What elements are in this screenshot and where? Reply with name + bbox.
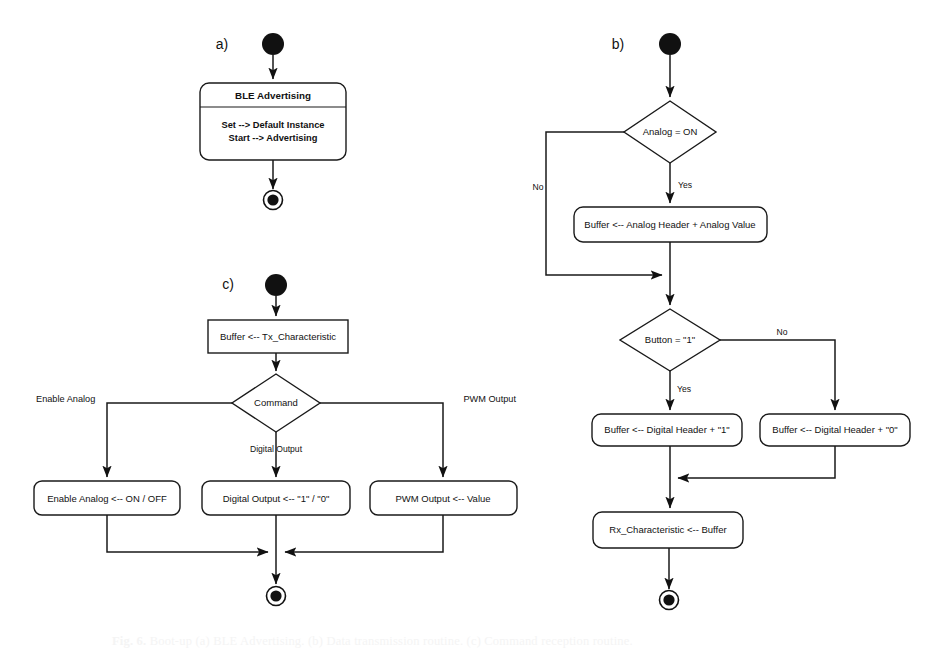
- panel-c-label-digital-output: Digital Output: [250, 444, 303, 454]
- panel-b-action-digital-zero-label: Buffer <-- Digital Header + "0": [772, 424, 897, 435]
- panel-c-edge-enable-analog-merge: [107, 515, 268, 552]
- panel-b-action-analog-buffer-label: Buffer <-- Analog Header + Analog Value: [584, 219, 755, 230]
- panel-c-action-pwm-output-label: PWM Output <-- Value: [395, 493, 490, 504]
- panel-c-edge-pwm-output: [320, 403, 443, 477]
- panel-b-decision-button-label: Button = "1": [645, 334, 695, 345]
- panel-c-initial-node: [265, 274, 287, 296]
- panel-c-letter: c): [222, 276, 234, 292]
- figure-caption: Fig. 6. Boot-up (a) BLE Advertising. (b)…: [112, 634, 633, 649]
- panel-a-initial-node: [262, 33, 284, 55]
- panel-b-decision-analog-label: Analog = ON: [643, 126, 698, 137]
- panel-a-activity-line-2: Start --> Advertising: [229, 133, 318, 143]
- panel-c: c) Buffer <-- Tx_Characteristic Command …: [34, 274, 517, 606]
- figure-root: a) BLE Advertising Set --> Default Insta…: [0, 0, 940, 649]
- panel-a-activity-title: BLE Advertising: [235, 90, 311, 101]
- panel-b-label-analog-no: No: [533, 182, 544, 192]
- panel-a-letter: a): [216, 36, 228, 52]
- panel-a-activity-line-1: Set --> Default Instance: [221, 120, 324, 130]
- panel-c-label-enable-analog: Enable Analog: [36, 394, 95, 404]
- panel-c-edge-pwm-output-merge: [285, 515, 443, 552]
- activity-diagram-canvas: a) BLE Advertising Set --> Default Insta…: [0, 0, 940, 649]
- panel-c-action-digital-output-label: Digital Output <-- "1" / "0": [223, 493, 330, 504]
- panel-b: b) Analog = ON Yes No Buffer <-- Analog …: [533, 33, 911, 610]
- panel-b-label-button-yes: Yes: [677, 384, 691, 394]
- panel-c-label-pwm-output: PWM Output: [463, 394, 516, 404]
- figure-caption-body: Boot-up (a) BLE Advertising. (b) Data tr…: [150, 634, 633, 648]
- figure-caption-prefix: Fig. 6.: [112, 634, 146, 648]
- panel-b-edge-digital-zero-merge: [678, 446, 835, 478]
- panel-b-label-analog-yes: Yes: [678, 180, 692, 190]
- panel-b-action-rx-characteristic-label: Rx_Characteristic <-- Buffer: [609, 524, 726, 535]
- panel-b-letter: b): [612, 36, 624, 52]
- panel-b-label-button-no: No: [777, 327, 788, 337]
- panel-a-final-node-core: [267, 194, 278, 205]
- panel-b-initial-node: [659, 33, 681, 55]
- panel-c-action-tx-characteristic-label: Buffer <-- Tx_Characteristic: [220, 331, 336, 342]
- panel-c-action-enable-analog-label: Enable Analog <-- ON / OFF: [47, 493, 167, 504]
- panel-b-edge-button-no: [720, 340, 835, 410]
- panel-b-final-node-core: [663, 594, 674, 605]
- panel-b-action-digital-one-label: Buffer <-- Digital Header + "1": [604, 424, 729, 435]
- panel-c-final-node-core: [270, 590, 281, 601]
- panel-c-decision-command-label: Command: [254, 397, 298, 408]
- panel-a: a) BLE Advertising Set --> Default Insta…: [200, 33, 346, 210]
- panel-c-edge-enable-analog: [107, 403, 232, 477]
- panel-b-edge-analog-no: [546, 132, 662, 275]
